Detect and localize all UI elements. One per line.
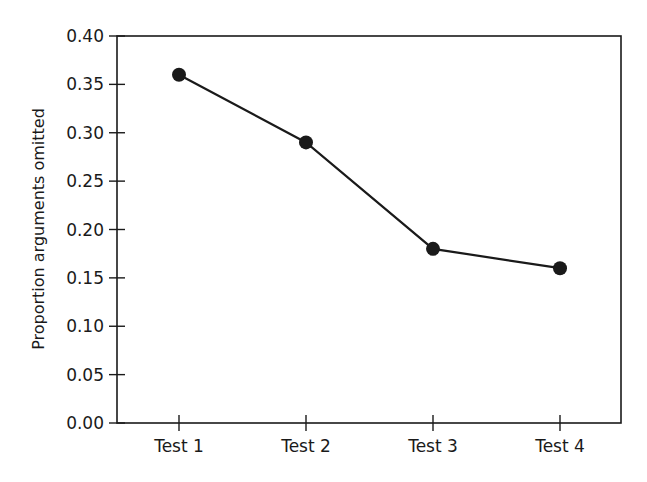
y-tick-label: 0.05 xyxy=(66,365,104,385)
x-tick-label: Test 3 xyxy=(407,436,458,456)
y-tick-label: 0.30 xyxy=(66,123,104,143)
y-tick-label: 0.15 xyxy=(66,268,104,288)
data-point-marker xyxy=(299,135,313,149)
data-point-marker xyxy=(172,68,186,82)
y-tick-label: 0.25 xyxy=(66,171,104,191)
y-tick-label: 0.00 xyxy=(66,413,104,433)
x-axis: Test 1Test 2Test 3Test 4 xyxy=(153,415,585,456)
x-tick-label: Test 1 xyxy=(153,436,204,456)
y-tick-label: 0.10 xyxy=(66,316,104,336)
x-tick-label: Test 2 xyxy=(280,436,331,456)
line-chart: 0.000.050.100.150.200.250.300.350.40 Tes… xyxy=(0,0,647,482)
series-line xyxy=(179,75,560,269)
y-tick-label: 0.40 xyxy=(66,26,104,46)
y-tick-label: 0.20 xyxy=(66,220,104,240)
plot-frame xyxy=(117,36,621,423)
y-axis-label: Proportion arguments omitted xyxy=(29,108,48,350)
y-tick-label: 0.35 xyxy=(66,74,104,94)
data-point-marker xyxy=(553,261,567,275)
y-axis: 0.000.050.100.150.200.250.300.350.40 xyxy=(66,26,125,433)
data-markers xyxy=(172,68,567,276)
x-tick-label: Test 4 xyxy=(534,436,585,456)
data-point-marker xyxy=(426,242,440,256)
